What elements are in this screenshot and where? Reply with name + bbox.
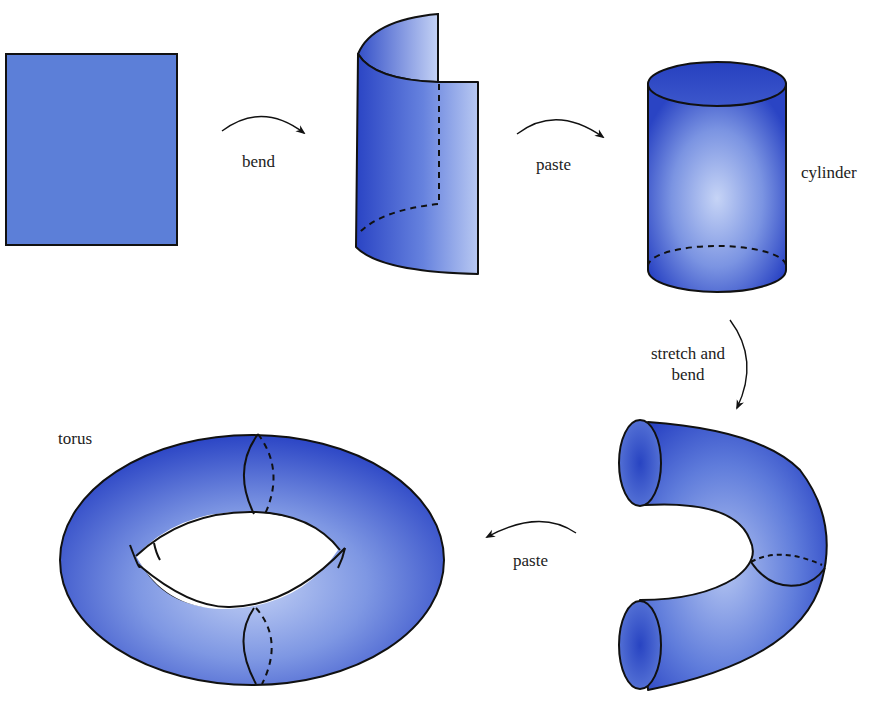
label-paste-top: paste xyxy=(536,154,571,175)
torus-shape xyxy=(60,434,444,685)
cylinder-shape xyxy=(648,62,786,292)
label-stretch-and-bend: stretch and bend xyxy=(640,343,736,386)
paste-arrow-bottom-icon xyxy=(487,521,576,537)
bend-arrow-icon xyxy=(222,116,304,133)
label-torus: torus xyxy=(58,428,92,449)
label-stretch-line2: bend xyxy=(640,364,736,385)
bent-tube xyxy=(619,420,827,690)
torus-construction-diagram: bend paste cylinder stretch and bend pas… xyxy=(0,0,884,702)
label-bend: bend xyxy=(242,151,275,172)
label-paste-bottom: paste xyxy=(513,550,548,571)
paste-arrow-top-icon xyxy=(517,120,603,137)
bent-sheet xyxy=(356,14,478,274)
label-cylinder: cylinder xyxy=(801,162,857,183)
square-sheet xyxy=(6,54,177,245)
label-stretch-line1: stretch and xyxy=(640,343,736,364)
